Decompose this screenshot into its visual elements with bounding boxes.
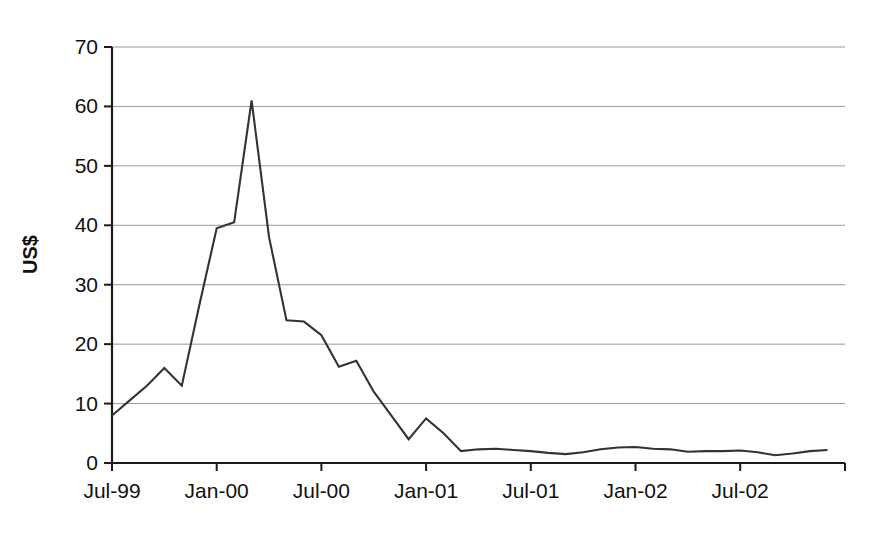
grid-lines [112,47,845,404]
line-chart: US$ 010203040506070 Jul-99Jan-00Jul-00Ja… [0,0,891,540]
plot-area [0,0,891,540]
y-axis-tick-marks [104,47,112,463]
x-axis-tick-marks [112,463,845,471]
data-series-line [112,100,827,455]
